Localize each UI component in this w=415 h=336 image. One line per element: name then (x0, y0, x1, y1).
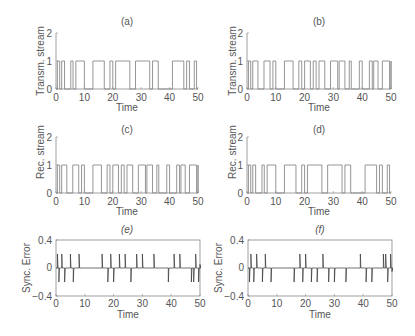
svg-text:20: 20 (300, 298, 312, 309)
plot-area (248, 240, 393, 296)
data-line (248, 254, 393, 282)
panel-d: (d) Rec. stream 2 1 0 0 10 20 30 40 50 T… (227, 124, 397, 217)
svg-text:2: 2 (46, 28, 52, 39)
svg-text:40: 40 (357, 92, 369, 103)
y-axis-label: Rec. stream (227, 125, 238, 179)
panel-a: (a) Transm. stream 2 1 0 0 10 20 30 40 5… (35, 16, 204, 113)
y-axis-label: Sync. Error (213, 242, 224, 293)
svg-text:1: 1 (46, 160, 52, 171)
x-tick-labels: 0 10 20 30 40 50 (245, 298, 398, 309)
panel-title: (d) (313, 124, 325, 135)
panel-f: (f) Sync. Error 0.4 0 −0.4 0 10 20 30 40… (213, 224, 398, 320)
y-axis-label: Sync. Error (21, 242, 32, 293)
y-tick-labels: 2 1 0 (237, 132, 243, 199)
x-axis-label: Time (117, 309, 139, 320)
panel-title: (c) (121, 124, 133, 135)
svg-text:−0.4: −0.4 (32, 291, 52, 302)
panel-title: (b) (313, 16, 325, 27)
svg-text:0: 0 (46, 262, 52, 273)
plot-area (247, 33, 391, 89)
svg-text:50: 50 (386, 298, 398, 309)
plot-area (56, 240, 201, 296)
x-axis-label: Time (308, 206, 330, 217)
svg-text:40: 40 (358, 298, 370, 309)
y-tick-labels: 0.4 0 −0.4 (32, 235, 52, 302)
plot-area (56, 33, 198, 89)
y-tick-labels: 2 1 0 (46, 132, 52, 199)
svg-text:50: 50 (385, 196, 397, 207)
svg-text:0: 0 (245, 298, 251, 309)
svg-text:50: 50 (192, 92, 204, 103)
x-axis-label: Time (308, 102, 330, 113)
svg-text:0: 0 (238, 262, 244, 273)
svg-text:30: 30 (329, 298, 341, 309)
data-line (247, 61, 391, 89)
svg-text:2: 2 (237, 28, 243, 39)
svg-text:10: 10 (79, 298, 91, 309)
svg-text:0.4: 0.4 (38, 235, 52, 246)
x-tick-labels: 0 10 20 30 40 50 (53, 298, 206, 309)
panel-title: (f) (315, 224, 324, 235)
y-axis-label: Transm. stream (227, 26, 238, 96)
svg-text:0: 0 (237, 84, 243, 95)
svg-text:10: 10 (271, 298, 283, 309)
svg-text:10: 10 (79, 92, 91, 103)
svg-text:10: 10 (79, 196, 91, 207)
svg-text:0: 0 (53, 298, 59, 309)
svg-text:40: 40 (166, 298, 178, 309)
panel-e: (e) Sync. Error 0.4 0 −0.4 0 10 20 30 40… (21, 224, 206, 320)
svg-text:1: 1 (46, 56, 52, 67)
svg-text:2: 2 (46, 132, 52, 143)
panel-c: (c) Rec. stream 2 1 0 0 10 20 30 40 50 T… (35, 124, 204, 217)
plot-area (247, 137, 391, 193)
svg-text:0: 0 (46, 188, 52, 199)
data-line (56, 61, 198, 89)
svg-text:10: 10 (270, 92, 282, 103)
svg-text:50: 50 (385, 92, 397, 103)
svg-text:−0.4: −0.4 (224, 291, 244, 302)
data-line (247, 165, 391, 193)
panel-b: (b) Transm. stream 2 1 0 0 10 20 30 40 5… (227, 16, 397, 113)
y-axis-label: Rec. stream (35, 125, 46, 179)
y-axis-label: Transm. stream (35, 26, 46, 96)
svg-text:0: 0 (53, 196, 59, 207)
svg-text:0: 0 (46, 84, 52, 95)
svg-text:2: 2 (237, 132, 243, 143)
y-tick-labels: 2 1 0 (237, 28, 243, 95)
x-axis-label: Time (116, 206, 138, 217)
svg-text:40: 40 (164, 196, 176, 207)
plot-area (56, 137, 198, 193)
figure: (a) Transm. stream 2 1 0 0 10 20 30 40 5… (0, 0, 415, 336)
data-line (56, 254, 201, 282)
svg-text:1: 1 (237, 56, 243, 67)
svg-text:40: 40 (357, 196, 369, 207)
data-line (56, 165, 198, 193)
y-tick-labels: 2 1 0 (46, 28, 52, 95)
svg-text:0: 0 (244, 196, 250, 207)
svg-text:0: 0 (244, 92, 250, 103)
svg-text:30: 30 (137, 298, 149, 309)
svg-text:0: 0 (237, 188, 243, 199)
svg-text:40: 40 (164, 92, 176, 103)
svg-text:20: 20 (108, 298, 120, 309)
svg-text:1: 1 (237, 160, 243, 171)
panel-title: (e) (121, 224, 133, 235)
svg-text:0.4: 0.4 (230, 235, 244, 246)
panel-title: (a) (121, 16, 133, 27)
svg-text:0: 0 (53, 92, 59, 103)
x-axis-label: Time (309, 309, 331, 320)
y-tick-labels: 0.4 0 −0.4 (224, 235, 244, 302)
svg-text:50: 50 (194, 298, 206, 309)
x-axis-label: Time (116, 102, 138, 113)
svg-text:50: 50 (192, 196, 204, 207)
svg-text:10: 10 (270, 196, 282, 207)
